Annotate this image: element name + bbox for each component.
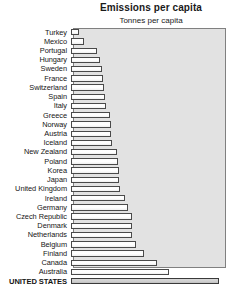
bar	[71, 131, 111, 137]
bar-row: Switzerland	[0, 83, 238, 92]
bar-track	[70, 240, 223, 249]
bar-row: Ireland	[0, 194, 238, 203]
chart-title: Emissions per capita	[74, 2, 228, 14]
bar-row: Sweden	[0, 65, 238, 74]
bar-track	[70, 74, 223, 83]
category-label: Spain	[0, 93, 70, 101]
bar-track	[70, 249, 223, 258]
bar-track	[70, 148, 223, 157]
bar	[71, 57, 100, 63]
category-label: Portugal	[0, 47, 70, 55]
bar-row: Netherlands	[0, 231, 238, 240]
bar-row: Denmark	[0, 222, 238, 231]
bar-track	[70, 157, 223, 166]
bar-track	[70, 231, 223, 240]
bar	[71, 121, 111, 127]
bar-row: Japan	[0, 176, 238, 185]
category-label: Mexico	[0, 38, 70, 46]
bar-row: Spain	[0, 93, 238, 102]
bar-track	[70, 37, 223, 46]
category-label: Netherlands	[0, 231, 70, 239]
bar-track	[70, 129, 223, 138]
category-label: Australia	[0, 268, 70, 276]
bar	[71, 278, 219, 284]
bar-row: United Kingdom	[0, 185, 238, 194]
category-label: Hungary	[0, 56, 70, 64]
bar	[71, 213, 132, 219]
bar-track	[70, 203, 223, 212]
category-label: Finland	[0, 250, 70, 258]
bar-track	[70, 222, 223, 231]
category-label: Korea	[0, 167, 70, 175]
bar-row: Korea	[0, 166, 238, 175]
title-block: Emissions per capita Tonnes per capita	[74, 2, 228, 26]
category-label: Czech Republic	[0, 213, 70, 221]
chart-subtitle: Tonnes per capita	[74, 15, 228, 26]
bar	[71, 223, 132, 229]
bar-row: France	[0, 74, 238, 83]
category-label: UNITED STATES	[0, 278, 70, 286]
bar-track	[70, 120, 223, 129]
bar	[71, 177, 119, 183]
bar	[71, 167, 119, 173]
bar	[71, 232, 132, 238]
category-label: Italy	[0, 102, 70, 110]
bar-track	[70, 65, 223, 74]
bar	[71, 241, 136, 247]
category-label: Canada	[0, 259, 70, 267]
bar-track	[70, 166, 223, 175]
bar-track	[70, 258, 223, 267]
category-label: France	[0, 75, 70, 83]
bar-track	[70, 83, 223, 92]
bar-row: Mexico	[0, 37, 238, 46]
bar	[71, 112, 110, 118]
category-label: Belgium	[0, 241, 70, 249]
category-label: Greece	[0, 112, 70, 120]
category-label: Sweden	[0, 65, 70, 73]
bar-track	[70, 28, 223, 37]
bar	[71, 250, 144, 256]
category-label: United Kingdom	[0, 185, 70, 193]
bar-track	[70, 111, 223, 120]
bar-row: Portugal	[0, 46, 238, 55]
category-label: Norway	[0, 121, 70, 129]
bar-track	[70, 56, 223, 65]
category-label: Ireland	[0, 195, 70, 203]
bar	[71, 66, 102, 72]
bar-row: New Zealand	[0, 148, 238, 157]
category-label: Austria	[0, 130, 70, 138]
bar-row: Finland	[0, 249, 238, 258]
category-label: New Zealand	[0, 148, 70, 156]
bar	[71, 103, 106, 109]
bar-track	[70, 46, 223, 55]
bar-row: Germany	[0, 203, 238, 212]
bar	[71, 158, 118, 164]
bar-track	[70, 185, 223, 194]
bar-row: Iceland	[0, 139, 238, 148]
bar-row: Hungary	[0, 56, 238, 65]
bar-row: Belgium	[0, 240, 238, 249]
category-label: Germany	[0, 204, 70, 212]
category-label: Iceland	[0, 139, 70, 147]
bar	[71, 38, 84, 44]
bar-row: Poland	[0, 157, 238, 166]
bar	[71, 260, 157, 266]
bar-row: Italy	[0, 102, 238, 111]
bar	[71, 204, 128, 210]
bar-track	[70, 212, 223, 221]
bar-track	[70, 139, 223, 148]
bar-track	[70, 102, 223, 111]
category-label: Turkey	[0, 29, 70, 37]
bar	[71, 48, 97, 54]
bar	[71, 75, 103, 81]
bar-row: Austria	[0, 129, 238, 138]
bar-row: Australia	[0, 268, 238, 277]
plot-wrapper: TurkeyMexicoPortugalHungarySwedenFranceS…	[0, 28, 238, 270]
category-label: Denmark	[0, 222, 70, 230]
bar	[71, 149, 117, 155]
category-label: Poland	[0, 158, 70, 166]
bar	[71, 269, 169, 275]
bar-row: Turkey	[0, 28, 238, 37]
bar-row: Greece	[0, 111, 238, 120]
